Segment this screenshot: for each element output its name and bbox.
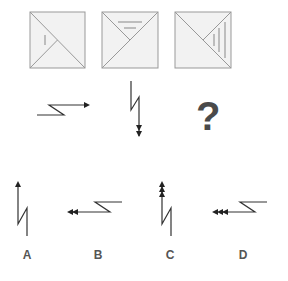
puzzle-canvas xyxy=(0,0,288,281)
square-3 xyxy=(175,12,231,68)
option-a-label[interactable]: A xyxy=(23,248,32,262)
square-1 xyxy=(30,12,85,68)
square-2 xyxy=(102,12,158,68)
option-b-label[interactable]: B xyxy=(94,248,103,262)
option-c-figure[interactable] xyxy=(159,181,171,236)
option-c-label[interactable]: C xyxy=(166,248,175,262)
option-b-figure[interactable] xyxy=(67,202,122,215)
figure-2-arrow-down xyxy=(131,81,142,137)
option-d-label[interactable]: D xyxy=(239,248,248,262)
option-d-figure[interactable] xyxy=(212,202,267,215)
figure-1-arrow-right xyxy=(37,102,90,115)
question-mark: ? xyxy=(196,96,220,136)
option-a-figure[interactable] xyxy=(15,181,27,236)
